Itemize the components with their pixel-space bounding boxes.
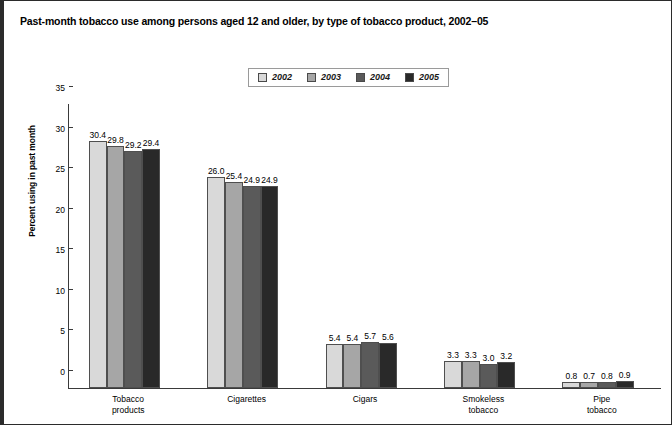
bar[interactable]: 5.4 (326, 344, 344, 388)
bar[interactable]: 0.8 (598, 382, 616, 388)
legend-item[interactable]: 2005 (405, 73, 439, 82)
y-axis-tick: 5 (60, 320, 69, 338)
y-axis-tick: 15 (56, 239, 69, 257)
y-axis-tick-label: 25 (56, 164, 69, 174)
legend-item-label: 2005 (419, 73, 439, 82)
bar-group: 3.33.33.03.2 (444, 104, 515, 388)
legend-item[interactable]: 2004 (356, 73, 390, 82)
legend-item[interactable]: 2002 (258, 73, 292, 82)
y-axis-tick: 35 (56, 77, 69, 95)
bar-group: 30.429.829.229.4 (89, 104, 160, 388)
bar-group: 5.45.45.75.6 (326, 104, 397, 388)
bar-group: 0.80.70.80.9 (562, 104, 633, 388)
bar[interactable]: 3.2 (497, 362, 515, 388)
bar-value-label: 29.8 (107, 135, 124, 145)
x-axis-category-label: Cigarettes (187, 394, 305, 405)
y-axis-tick: 30 (56, 118, 69, 136)
y-axis-tick-mark (69, 86, 73, 87)
bar[interactable]: 3.0 (480, 364, 498, 388)
bar-series-container: 30.429.829.229.426.025.424.924.95.45.45.… (69, 104, 661, 388)
bar[interactable]: 5.7 (361, 342, 379, 388)
y-axis-tick: 0 (60, 361, 69, 379)
bar[interactable]: 25.4 (225, 182, 243, 388)
bar-value-label: 3.2 (500, 351, 512, 361)
bar[interactable]: 3.3 (444, 361, 462, 388)
legend-swatch-icon (307, 73, 316, 82)
bar[interactable]: 24.9 (243, 186, 261, 388)
y-axis-tick: 25 (56, 158, 69, 176)
y-axis-tick-label: 5 (60, 326, 69, 336)
legend-item-label: 2004 (370, 73, 390, 82)
legend-swatch-icon (258, 73, 267, 82)
bar-value-label: 29.4 (143, 138, 160, 148)
x-axis-category-label: Tobacco products (69, 394, 187, 416)
legend-swatch-icon (405, 73, 414, 82)
bar[interactable]: 5.4 (343, 344, 361, 388)
legend-swatch-icon (356, 73, 365, 82)
bar[interactable]: 5.6 (379, 343, 397, 388)
bar[interactable]: 26.0 (207, 177, 225, 388)
y-axis-tick-label: 30 (56, 124, 69, 134)
x-axis-category-label: Smokeless tobacco (424, 394, 542, 416)
bar-value-label: 25.4 (226, 171, 243, 181)
legend-item[interactable]: 2003 (307, 73, 341, 82)
bar-value-label: 3.3 (465, 350, 477, 360)
chart-legend: 2002200320042005 (248, 68, 449, 87)
bar-value-label: 3.0 (483, 353, 495, 363)
y-axis-tick: 20 (56, 199, 69, 217)
bar[interactable]: 29.8 (107, 146, 125, 388)
bar[interactable]: 29.2 (124, 151, 142, 388)
y-axis-tick-label: 0 (60, 367, 69, 377)
bar[interactable]: 0.9 (616, 381, 634, 388)
y-axis-tick: 10 (56, 280, 69, 298)
x-axis-category-label: Pipe tobacco (543, 394, 661, 416)
y-axis-tick-label: 35 (56, 83, 69, 93)
x-axis-category-label: Cigars (306, 394, 424, 405)
bar[interactable]: 24.9 (261, 186, 279, 388)
legend-item-label: 2003 (321, 73, 341, 82)
plot-area: 05101520253035 30.429.829.229.426.025.42… (68, 104, 661, 389)
bar-value-label: 30.4 (89, 130, 106, 140)
bar-value-label: 5.7 (364, 331, 376, 341)
bar-value-label: 24.9 (243, 175, 260, 185)
bar-value-label: 5.6 (382, 332, 394, 342)
bar-value-label: 5.4 (329, 333, 341, 343)
bar-value-label: 24.9 (261, 175, 278, 185)
bar-value-label: 0.7 (583, 371, 595, 381)
y-axis-label: Percent using in past month (27, 106, 37, 256)
y-axis-tick-label: 10 (56, 286, 69, 296)
bar-value-label: 29.2 (125, 140, 142, 150)
bar-value-label: 0.8 (565, 371, 577, 381)
bar-value-label: 0.9 (619, 370, 631, 380)
bar-value-label: 26.0 (208, 166, 225, 176)
y-axis-tick-label: 15 (56, 245, 69, 255)
chart-title: Past-month tobacco use among persons age… (20, 15, 660, 28)
y-axis-tick-label: 20 (56, 205, 69, 215)
bar-value-label: 0.8 (601, 371, 613, 381)
bar-value-label: 5.4 (346, 333, 358, 343)
bar-value-label: 3.3 (447, 350, 459, 360)
bar[interactable]: 3.3 (462, 361, 480, 388)
bar-group: 26.025.424.924.9 (207, 104, 278, 388)
bar[interactable]: 0.7 (580, 382, 598, 388)
legend-item-label: 2002 (272, 73, 292, 82)
bar[interactable]: 0.8 (562, 382, 580, 388)
chart-figure: Past-month tobacco use among persons age… (0, 0, 672, 425)
bar[interactable]: 29.4 (142, 149, 160, 388)
bar[interactable]: 30.4 (89, 141, 107, 388)
